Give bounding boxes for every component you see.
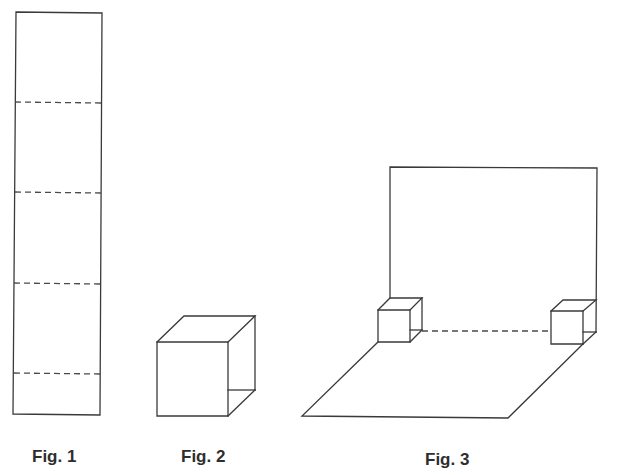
caption-fig-1: Fig. 1: [32, 447, 76, 467]
fold-line-1: [15, 102, 101, 103]
right-cube-front: [551, 311, 583, 344]
right-small-cube: [551, 300, 596, 344]
fold-line-4: [14, 373, 100, 374]
strip-outline: [13, 12, 102, 415]
caption-fig-2: Fig. 2: [181, 447, 225, 467]
fold-line-2: [15, 192, 101, 193]
back-wall: [390, 167, 597, 332]
cube-bottom-diagonal: [228, 390, 255, 416]
cube-top-face: [157, 316, 255, 342]
cube-front-face: [157, 342, 228, 416]
floor: [302, 342, 583, 418]
right-cube-top: [551, 300, 596, 311]
left-small-cube: [378, 298, 422, 342]
figure-3-assembly: [302, 167, 597, 418]
left-cube-diagonal: [410, 330, 422, 342]
diagram-canvas: [0, 0, 619, 475]
figure-2-cube: [157, 316, 255, 416]
left-cube-front: [378, 310, 410, 342]
right-cube-diagonal: [583, 332, 596, 344]
caption-fig-3: Fig. 3: [425, 450, 469, 470]
left-cube-top: [378, 298, 422, 310]
figure-1-strip: [13, 12, 102, 415]
fold-line-3: [14, 283, 100, 284]
